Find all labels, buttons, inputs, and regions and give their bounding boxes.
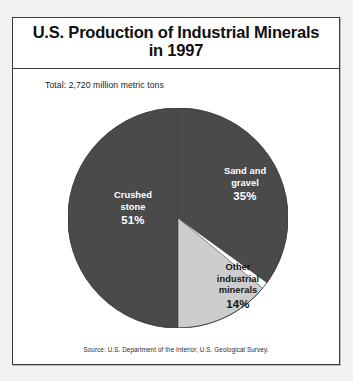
chart-source-note: Source: U.S. Department of the Interior,…: [13, 346, 339, 353]
pie-label-crushed-stone-percent: 51%: [121, 214, 144, 226]
pie-label-other-line2: industrial: [217, 274, 259, 284]
pie-label-sand-and-gravel-percent: 35%: [233, 190, 256, 202]
title-divider: [13, 68, 339, 69]
pie-label-other-percent: 14%: [226, 298, 249, 310]
pie-label-crushed-stone-line1: Crushed: [114, 190, 152, 200]
chart-title: U.S. Production of Industrial Minerals i…: [13, 23, 339, 60]
pie-label-other-line1: Other: [225, 262, 250, 272]
pie-chart-area: Crushed stone 51% Sand and gravel 35% Ot…: [13, 92, 339, 330]
chart-title-line1: U.S. Production of Industrial Minerals: [33, 23, 320, 41]
chart-title-line2: in 1997: [149, 41, 204, 59]
pie-label-other-industrial-minerals: Other industrial minerals 14%: [193, 262, 283, 312]
figure-panel: U.S. Production of Industrial Minerals i…: [12, 17, 340, 365]
pie-label-sand-and-gravel: Sand and gravel 35%: [203, 166, 287, 204]
pie-label-other-line3: minerals: [219, 285, 258, 295]
pie-label-crushed-stone: Crushed stone 51%: [91, 190, 175, 228]
pie-label-sand-and-gravel-line2: gravel: [231, 178, 259, 188]
pie-label-crushed-stone-line2: stone: [120, 202, 145, 212]
chart-subtitle-total: Total: 2,720 million metric tons: [45, 80, 164, 90]
pie-label-sand-and-gravel-line1: Sand and: [224, 166, 266, 176]
